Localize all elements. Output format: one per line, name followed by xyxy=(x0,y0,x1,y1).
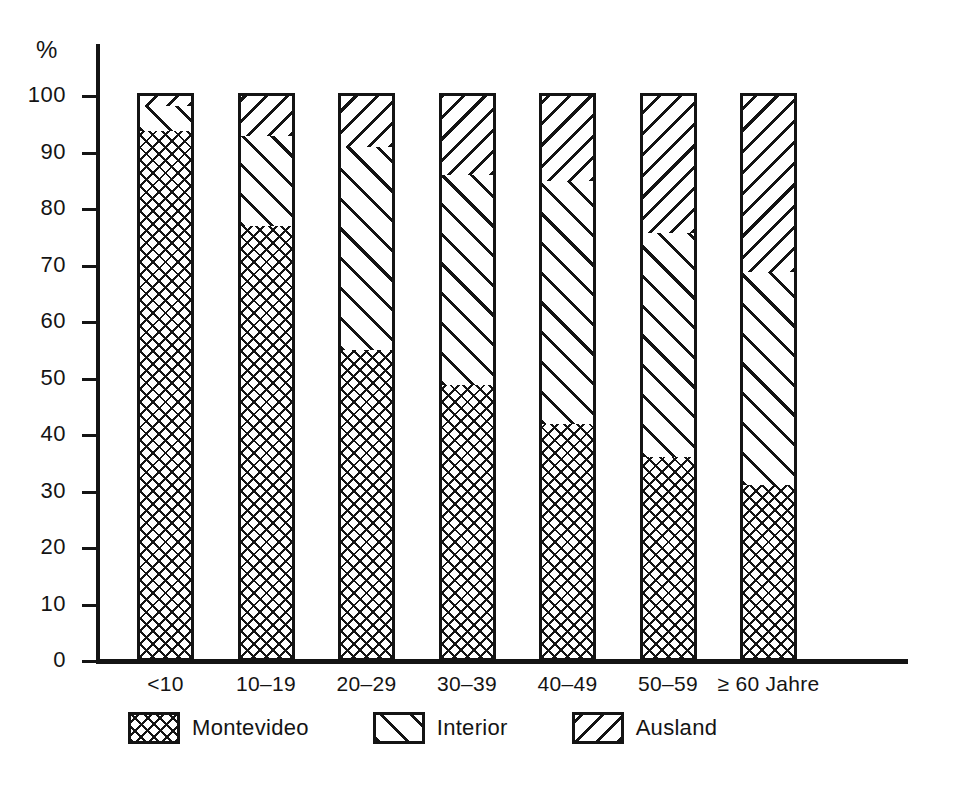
bar-group xyxy=(539,44,596,661)
bar-segment-interior xyxy=(640,230,697,457)
bar-segment-ausland xyxy=(740,93,797,272)
y-tick-label: 80 xyxy=(14,197,66,219)
y-tick-label: 20 xyxy=(14,536,66,558)
bar-segment-montevideo xyxy=(740,482,797,661)
bar-segment-ausland xyxy=(439,93,496,175)
legend-item: Ausland xyxy=(572,712,718,744)
legend-item: Interior xyxy=(373,712,508,744)
bar-segment-montevideo xyxy=(238,223,295,661)
y-tick-mark xyxy=(82,378,97,381)
y-tick-mark xyxy=(82,604,97,607)
legend-swatch-montevideo xyxy=(128,712,180,744)
bar-segment-interior xyxy=(539,178,596,424)
bar-segment-interior xyxy=(740,269,797,484)
bar-segment-montevideo xyxy=(338,347,395,661)
y-tick-label: 0 xyxy=(14,649,66,671)
plot-area xyxy=(96,44,908,661)
bar-segment-interior xyxy=(238,133,295,226)
y-tick-label: 30 xyxy=(14,480,66,502)
bar-segment-montevideo xyxy=(640,454,697,661)
bar-group xyxy=(338,44,395,661)
legend-item: Montevideo xyxy=(128,712,309,744)
bar-group xyxy=(640,44,697,661)
bar-segment-ausland xyxy=(539,93,596,181)
bar-segment-interior xyxy=(137,103,194,131)
bar-group xyxy=(238,44,295,661)
y-axis-unit-label: % xyxy=(36,38,57,62)
y-tick-mark xyxy=(82,208,97,211)
y-tick-mark xyxy=(82,491,97,494)
bar-segment-montevideo xyxy=(539,421,596,661)
chart-legend: MontevideoInteriorAusland xyxy=(128,712,717,744)
y-tick-label: 50 xyxy=(14,367,66,389)
y-tick-label: 10 xyxy=(14,593,66,615)
y-tick-label: 90 xyxy=(14,141,66,163)
y-tick-mark xyxy=(82,265,97,268)
bar-segment-interior xyxy=(439,172,496,385)
y-tick-mark xyxy=(82,152,97,155)
y-tick-label: 100 xyxy=(14,84,66,106)
y-tick-label: 60 xyxy=(14,310,66,332)
bar-segment-montevideo xyxy=(137,128,194,661)
legend-label: Interior xyxy=(437,716,508,740)
legend-swatch-interior xyxy=(373,712,425,744)
legend-swatch-ausland xyxy=(572,712,624,744)
bar-segment-interior xyxy=(338,144,395,350)
bar-group xyxy=(740,44,797,661)
bar-segment-ausland xyxy=(137,93,194,106)
bar-segment-ausland xyxy=(238,93,295,136)
y-tick-mark xyxy=(82,321,97,324)
y-tick-mark xyxy=(82,434,97,437)
y-tick-mark xyxy=(82,95,97,98)
bar-segment-montevideo xyxy=(439,382,496,661)
x-axis-label: ≥ 60 Jahre xyxy=(694,672,844,696)
bar-segment-ausland xyxy=(338,93,395,147)
stacked-bar-chart: % 1009080706050403020100 <1010–1920–2930… xyxy=(0,0,964,790)
bar-segment-ausland xyxy=(640,93,697,233)
y-tick-label: 70 xyxy=(14,254,66,276)
y-tick-mark xyxy=(82,547,97,550)
y-tick-label: 40 xyxy=(14,423,66,445)
bar-group xyxy=(439,44,496,661)
y-tick-mark xyxy=(82,660,97,663)
legend-label: Ausland xyxy=(636,716,718,740)
bar-group xyxy=(137,44,194,661)
legend-label: Montevideo xyxy=(192,716,309,740)
